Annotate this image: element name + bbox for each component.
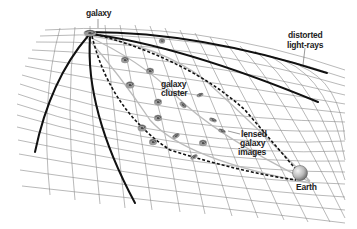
spiral-galaxy-icon <box>126 81 135 88</box>
cluster-label-2: cluster <box>161 88 188 98</box>
light-rays-label: light-rays <box>287 40 324 50</box>
spiral-galaxy-icon <box>209 117 218 123</box>
galaxy-label: galaxy <box>86 8 112 18</box>
spiral-galaxy-icon <box>121 57 129 63</box>
spiral-galaxy-icon <box>154 115 162 121</box>
spiral-galaxy-icon <box>196 92 204 98</box>
spiral-galaxy-icon <box>190 153 199 160</box>
distorted-label: distorted <box>288 30 323 40</box>
spiral-galaxy-icon <box>149 139 157 145</box>
spiral-galaxy-icon <box>218 128 227 134</box>
spiral-galaxy-icon <box>146 68 154 74</box>
spiral-galaxy-icon <box>138 124 147 131</box>
earth-label: Earth <box>296 182 317 192</box>
earth-icon <box>293 166 308 181</box>
gravitational-lensing-diagram: galaxy distorted light-rays galaxy clust… <box>0 0 357 229</box>
spacetime-grid <box>17 25 345 223</box>
source-galaxy-icon <box>84 30 97 36</box>
rays-leader-line <box>303 48 305 65</box>
spiral-galaxy-icon <box>154 99 162 105</box>
lensed-leader-line <box>228 131 240 134</box>
spiral-galaxy-icon <box>199 140 207 146</box>
spiral-galaxy-icon <box>159 38 165 43</box>
lensed-label-3: images <box>238 147 267 157</box>
